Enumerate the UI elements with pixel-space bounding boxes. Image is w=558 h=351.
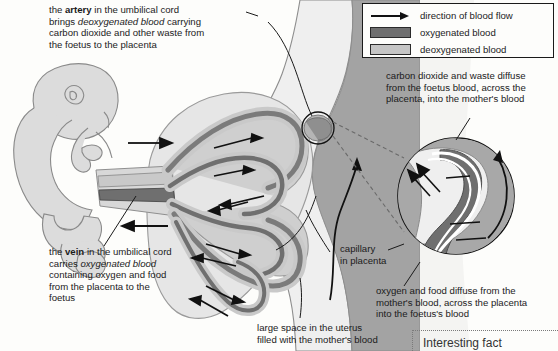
- legend-oxygenated-label: oxygenated blood: [420, 27, 496, 38]
- legend-deoxygenated-label: deoxygenated blood: [420, 44, 506, 55]
- annotation-capillary: capillary in placenta: [340, 243, 420, 266]
- interesting-fact-box: Interesting fact: [412, 330, 558, 351]
- annotation-uterus-space: large space in the uterus filled with th…: [257, 322, 417, 345]
- annotation-o2-diffusion: oxygen and food diffuse from the mother'…: [376, 285, 558, 320]
- capillary-magnified-inset: [398, 138, 517, 254]
- right-arrow-icon: [370, 10, 411, 21]
- annotation-vein: the vein in the umbilical cordcarries ox…: [49, 246, 249, 304]
- deoxygenated-swatch: [370, 44, 411, 55]
- annotation-co2-diffusion: carbon dioxide and waste diffuse from th…: [386, 70, 558, 105]
- umbilical-artery: [99, 188, 175, 202]
- oxygenated-swatch: [370, 27, 411, 38]
- legend-box: direction of blood flow oxygenated blood…: [362, 3, 554, 58]
- legend-row-oxygenated: oxygenated blood: [370, 24, 553, 41]
- legend-row-deoxygenated: deoxygenated blood: [370, 41, 553, 58]
- legend-row-flow: direction of blood flow: [370, 7, 553, 24]
- annotation-artery: the artery in the umbilical cordbrings d…: [49, 4, 279, 50]
- legend-flow-label: direction of blood flow: [420, 10, 513, 21]
- diagram-canvas: Placenta and umbilical cord blood flow d…: [0, 0, 558, 351]
- interesting-fact-label: Interesting fact: [423, 336, 502, 350]
